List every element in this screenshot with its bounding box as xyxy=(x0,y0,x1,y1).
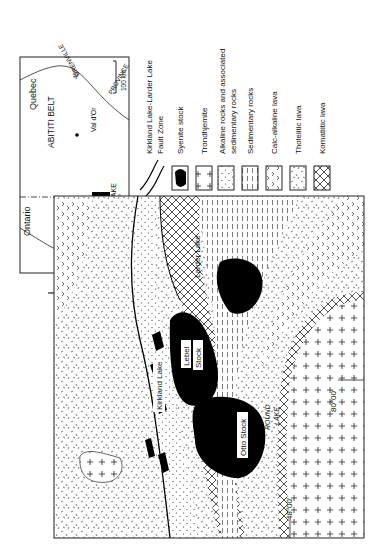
longitude-label: 80°00' xyxy=(329,389,338,412)
legend-label-calcalkaline: Calc-alkaline lava xyxy=(270,91,279,154)
svg-text:Otto Stock: Otto Stock xyxy=(239,418,248,456)
scale-label: 100 km xyxy=(120,70,127,91)
alkaline-swatch xyxy=(218,166,234,190)
valdor-point xyxy=(75,133,79,137)
otto-stock-label: Otto Stock xyxy=(237,412,248,458)
kirkland-lake-town-label: Kirkland Lake xyxy=(153,360,165,412)
main-geologic-map: Kirkland Lake Larder Lake Lebel Stock Ot… xyxy=(54,196,364,538)
ontario-label: Ontario xyxy=(22,206,32,236)
legend: Kirkland Lake-Larder Lake Fault Zone Sye… xyxy=(140,49,330,196)
sedimentary-swatch xyxy=(242,166,258,190)
valdor-label: Val d'Or xyxy=(90,107,97,132)
abitibi-label: ABITITI BELT xyxy=(46,96,56,148)
svg-text:Stock: Stock xyxy=(194,347,203,368)
legend-label-sedimentary: Sedimentary rocks xyxy=(246,88,255,154)
calcalkaline-swatch xyxy=(266,166,282,190)
legend-label-tholeiitic: Tholeiitic lava xyxy=(294,105,303,154)
legend-label-fault: Kirkland Lake-Larder Lake xyxy=(145,60,154,154)
komatiitic-swatch xyxy=(314,166,330,190)
svg-text:Lebel: Lebel xyxy=(182,346,191,366)
larder-lake-town-label: Larder Lake xyxy=(193,235,202,278)
legend-label-komatiitic: Komatiitic lava xyxy=(318,102,327,154)
legend-label-alkaline: Alkaline rocks and associated xyxy=(218,49,227,154)
fault-symbol xyxy=(140,160,158,190)
legend-label-alkaline-2: sedimentary rocks xyxy=(229,89,238,154)
trondhjemite-swatch xyxy=(196,166,212,190)
legend-label-trondhjemite: Trondhjemite xyxy=(200,107,209,154)
geologic-map-figure: Quebec Ontario ABITITI BELT GRENVILLE PR… xyxy=(0,0,368,556)
svg-text:Kirkland Lake: Kirkland Lake xyxy=(155,361,164,410)
lat49-label: 49° xyxy=(72,69,79,79)
svg-text:LAKE: LAKE xyxy=(273,407,280,425)
tholeiitic-swatch xyxy=(290,166,306,190)
legend-label-fault-2: Fault Zone xyxy=(156,115,165,154)
svg-text:ROUND: ROUND xyxy=(264,404,271,430)
latitude-label: 48°00' xyxy=(285,497,294,520)
quebec-label: Quebec xyxy=(28,78,38,110)
svg-text:Larder Lake: Larder Lake xyxy=(193,235,202,278)
legend-label-syenite: Syenite stock xyxy=(176,105,185,154)
